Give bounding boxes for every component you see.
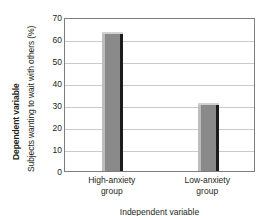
x-axis-tick-label-line2: group — [185, 186, 230, 197]
bar-chart-figure: Dependent variable Subjects wanting to w… — [0, 0, 267, 216]
y-axis-tick-label: 60 — [53, 36, 62, 45]
bar-top-edge — [198, 103, 219, 105]
bar-fill — [105, 32, 120, 171]
bar — [102, 32, 123, 171]
y-axis-tick-label: 70 — [53, 14, 62, 23]
y-axis-tick-label: 40 — [53, 80, 62, 89]
x-axis-tick-label: Low-anxietygroup — [185, 175, 230, 197]
y-axis-tick-label: 20 — [53, 124, 62, 133]
x-axis-tick-label-line1: Low-anxiety — [185, 175, 230, 186]
x-axis-tick-label: High-anxietygroup — [88, 175, 135, 197]
bar-series — [65, 19, 254, 171]
y-axis-tick-label: 0 — [57, 168, 62, 177]
plot-area — [64, 18, 255, 172]
y-axis-tick-labels: 706050403020100 — [44, 18, 62, 172]
x-axis-tick-label-line1: High-anxiety — [88, 175, 135, 186]
bar — [198, 103, 219, 171]
x-axis-tick-labels: High-anxietygroupLow-anxietygroup — [64, 175, 255, 203]
x-axis-tick-label-line2: group — [88, 186, 135, 197]
y-axis-tick-label: 10 — [53, 146, 62, 155]
y-axis-tick-label: 30 — [53, 102, 62, 111]
y-axis-title: Subjects wanting to wait with others (%) — [27, 26, 36, 172]
y-axis-tick-label: 50 — [53, 58, 62, 67]
dependent-variable-label: Dependent variable — [12, 83, 21, 160]
bar-fill — [201, 103, 216, 171]
x-axis-title-clipped: Independent variable — [64, 207, 255, 216]
bar-shadow-edge — [120, 32, 123, 171]
bar-shadow-edge — [216, 103, 219, 171]
bar-top-edge — [102, 32, 123, 34]
